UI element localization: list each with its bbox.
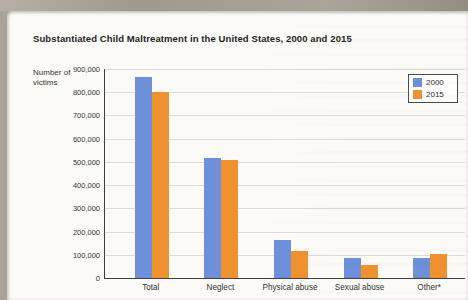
bar-2000-sexual-abuse [344, 258, 361, 278]
x-label-neglect: Neglect [207, 283, 235, 292]
y-tick-0: 0 [41, 274, 100, 283]
y-tick-200,000: 200,000 [41, 228, 100, 237]
bar-group-neglect [204, 158, 238, 278]
bar-group-other- [413, 254, 447, 278]
x-label-total: Total [142, 283, 159, 292]
legend-label-2015: 2015 [426, 90, 444, 99]
y-tick-900,000: 900,000 [41, 65, 100, 74]
book-page-photo: Substantiated Child Maltreatment in the … [0, 0, 468, 300]
y-tick-500,000: 500,000 [41, 158, 100, 167]
y-tick-700,000: 700,000 [41, 111, 100, 120]
bar-2000-neglect [204, 158, 221, 278]
bar-2000-other- [413, 258, 430, 278]
legend-item-2000: 2000 [413, 78, 453, 87]
legend-label-2000: 2000 [426, 78, 444, 87]
bar-2015-physical-abuse [291, 251, 308, 278]
y-axis-label-line2: victims [33, 78, 87, 88]
x-label-physical-abuse: Physical abuse [262, 283, 317, 292]
x-label-other-: Other* [417, 283, 441, 292]
bar-2015-neglect [221, 160, 238, 278]
y-tick-300,000: 300,000 [41, 204, 100, 213]
bar-group-total [135, 77, 169, 278]
bar-2015-sexual-abuse [361, 265, 378, 278]
bar-2015-total [152, 92, 169, 278]
bar-2000-total [135, 77, 152, 278]
y-tick-100,000: 100,000 [41, 251, 100, 260]
legend: 2000 2015 [408, 74, 458, 103]
legend-swatch-2015-icon [413, 90, 422, 99]
bar-group-sexual-abuse [344, 258, 378, 278]
x-label-sexual-abuse: Sexual abuse [335, 283, 385, 292]
y-tick-800,000: 800,000 [41, 88, 100, 97]
bar-group-physical-abuse [274, 240, 308, 278]
gridline-900,000 [105, 69, 465, 70]
page-panel: Substantiated Child Maltreatment in the … [7, 11, 468, 300]
y-tick-400,000: 400,000 [41, 181, 100, 190]
bar-2015-other- [430, 254, 447, 278]
legend-item-2015: 2015 [413, 90, 453, 99]
chart-title: Substantiated Child Maltreatment in the … [33, 33, 463, 44]
photo-edge [0, 0, 468, 11]
bar-2000-physical-abuse [274, 240, 291, 278]
y-tick-600,000: 600,000 [41, 135, 100, 144]
legend-swatch-2000-icon [413, 78, 422, 87]
